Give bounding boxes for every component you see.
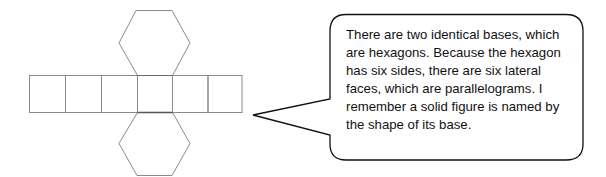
lateral-face-3	[102, 76, 138, 113]
bubble-line: are hexagons. Because the hexagon	[346, 44, 578, 62]
lateral-face-2	[66, 76, 102, 113]
lateral-face-6	[208, 76, 242, 113]
bottom-hexagon-base	[119, 113, 190, 176]
bubble-line: There are two identical bases, which	[346, 26, 578, 44]
top-hexagon-base	[119, 11, 190, 76]
lateral-face-5	[173, 76, 209, 113]
speech-bubble-text: There are two identical bases, which are…	[346, 26, 578, 134]
bubble-line: the shape of its base.	[346, 116, 578, 134]
lateral-face-1	[30, 76, 66, 113]
bubble-line: remember a solid figure is named by	[346, 98, 578, 116]
lateral-face-4	[138, 76, 173, 113]
bubble-line: has six sides, there are six lateral	[346, 62, 578, 80]
bubble-line: faces, which are parallelograms. I	[346, 80, 578, 98]
hexagonal-prism-net	[30, 11, 243, 176]
